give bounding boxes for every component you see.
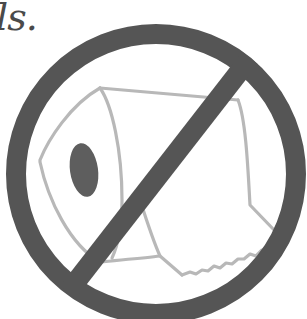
no-toilet-paper-icon [0, 0, 307, 319]
illustration-canvas: ls. [0, 0, 307, 319]
roll-hole-icon [66, 141, 101, 198]
